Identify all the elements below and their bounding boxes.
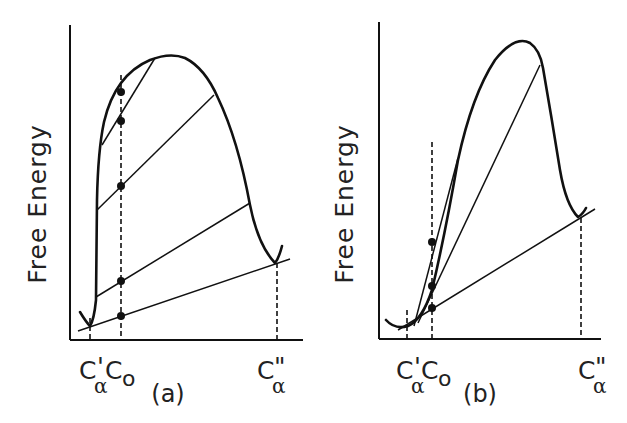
y-axis-label-b: Free Energy	[330, 124, 359, 284]
tick-label-c-alpha-double-prime-b: C " α	[578, 352, 607, 398]
tick-label-co-a: C o	[105, 356, 135, 391]
common-tangent-b	[398, 209, 595, 330]
panel-b: Free Energy C ' α C o C " α	[330, 22, 607, 408]
tick-label-c-alpha-prime-a: C ' α	[79, 352, 108, 398]
svg-text:C: C	[421, 356, 438, 385]
free-energy-curve-b	[386, 41, 586, 327]
panel-a: Free Energy C ' α C o C	[23, 25, 303, 408]
tick-label-c-alpha-double-prime-a: C " α	[257, 352, 286, 398]
point-a-5	[117, 312, 125, 320]
common-tangent-a	[78, 259, 290, 331]
svg-text:α: α	[272, 374, 286, 398]
panel-label-b: (b)	[463, 380, 497, 408]
svg-text:C: C	[105, 356, 122, 385]
tick-label-co-b: C o	[421, 356, 451, 391]
svg-text:o: o	[438, 366, 451, 391]
point-b-3	[428, 304, 436, 312]
point-a-2	[117, 117, 125, 125]
free-energy-curve-a	[80, 55, 282, 326]
point-a-1	[117, 88, 125, 96]
point-b-2	[428, 282, 436, 290]
chord-b-2	[418, 65, 540, 323]
y-axis-label-a: Free Energy	[23, 124, 52, 284]
point-a-3	[117, 182, 125, 190]
tie-line-a-2	[97, 95, 214, 210]
free-energy-figure: Free Energy C ' α C o C	[0, 0, 627, 423]
point-b-1	[428, 238, 436, 246]
svg-text:o: o	[122, 366, 135, 391]
svg-text:α: α	[593, 374, 607, 398]
point-a-4	[117, 277, 125, 285]
panel-label-a: (a)	[151, 380, 184, 408]
